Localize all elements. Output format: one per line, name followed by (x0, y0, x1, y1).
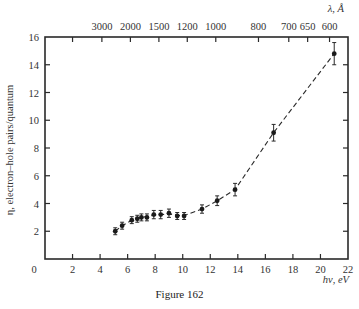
data-point (233, 183, 238, 195)
data-point (175, 213, 180, 220)
point-marker (200, 207, 205, 212)
point-marker (158, 212, 163, 217)
y-axis-title: η, electron–hole pairs/quantum (4, 85, 15, 216)
y-tick-label: 16 (29, 32, 40, 43)
x-axis-ticks: 0246810121416182022 (31, 254, 353, 275)
data-point (182, 213, 187, 220)
data-point (145, 214, 150, 221)
point-marker (332, 51, 337, 56)
point-marker (120, 223, 125, 228)
x-tick-label: 2 (70, 264, 75, 275)
data-point (158, 210, 163, 218)
x-tick-label: 12 (205, 264, 216, 275)
top-tick-label: 1000 (205, 21, 226, 32)
fit-line-path (115, 54, 334, 232)
data-point (215, 196, 220, 206)
top-wavelength-axis-ticks: 30002000150012001000800700650600 (73, 21, 338, 42)
x-axis-title: hν, eV (323, 274, 351, 285)
x-tick-label: 18 (288, 264, 299, 275)
point-marker (129, 218, 134, 223)
y-tick-label: 8 (34, 143, 39, 154)
x-tick-label: 10 (177, 264, 188, 275)
top-tick-label: 3000 (91, 21, 112, 32)
plot-border (45, 37, 348, 259)
point-marker (145, 215, 150, 220)
point-marker (182, 214, 187, 219)
point-marker (135, 216, 140, 221)
data-point (120, 222, 125, 229)
plot-frame (45, 37, 348, 259)
x-tick-label: 16 (260, 264, 271, 275)
data-points (113, 43, 337, 235)
y-axis-ticks: 246810121416 (29, 32, 349, 237)
data-point (151, 210, 156, 218)
y-tick-label: 10 (29, 115, 40, 126)
data-point (271, 124, 276, 141)
point-marker (113, 229, 118, 234)
top-tick-label: 650 (300, 21, 316, 32)
data-point (332, 43, 337, 65)
x-tick-label: 6 (125, 264, 130, 275)
x-tick-label: 14 (233, 264, 244, 275)
dashed-fit-line (115, 54, 334, 232)
data-point (139, 214, 144, 221)
chart-figure: 0246810121416182022 246810121416 3000200… (0, 0, 359, 309)
figure-caption: Figure 162 (0, 288, 359, 300)
top-tick-label: 600 (322, 21, 338, 32)
data-point (129, 217, 134, 224)
x-tick-label: 8 (153, 264, 158, 275)
y-tick-label: 2 (34, 226, 39, 237)
top-axis-title: λ, Å (327, 3, 345, 14)
point-marker (167, 211, 172, 216)
point-marker (151, 212, 156, 217)
top-tick-label: 800 (251, 21, 267, 32)
top-tick-label: 1500 (148, 21, 169, 32)
point-marker (175, 214, 180, 219)
data-point (135, 215, 140, 222)
x-tick-label: 4 (97, 264, 103, 275)
top-tick-label: 2000 (120, 21, 141, 32)
y-tick-label: 12 (29, 88, 40, 99)
y-tick-label: 4 (34, 199, 40, 210)
x-tick-label: 0 (31, 264, 36, 275)
data-point (113, 228, 118, 235)
y-tick-label: 6 (34, 171, 39, 182)
top-tick-label: 1200 (177, 21, 198, 32)
point-marker (233, 187, 238, 192)
point-marker (271, 130, 276, 135)
top-tick-label: 700 (281, 21, 297, 32)
data-point (167, 209, 172, 217)
data-point (200, 205, 205, 213)
y-tick-label: 14 (29, 60, 40, 71)
point-marker (215, 198, 220, 203)
point-marker (139, 215, 144, 220)
